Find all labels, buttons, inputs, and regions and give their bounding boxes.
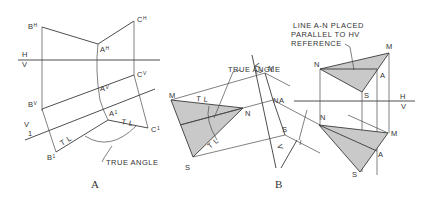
- label-tl-a1c1: T L: [121, 117, 135, 128]
- label-m-bottom: M: [391, 129, 398, 138]
- label-tl-mn: T L: [196, 94, 209, 104]
- label-hv-top: H: [22, 50, 28, 59]
- label-m-edge: M: [268, 64, 275, 73]
- true-angle-arc: [85, 126, 136, 142]
- label-hv-top-b: H: [400, 92, 406, 101]
- label-bh: BH: [28, 22, 38, 31]
- note-line-2: PARALLEL TO HV: [291, 30, 360, 39]
- label-tl-b1a1: T L: [58, 134, 73, 148]
- note-line-1: LINE A-N PLACED: [293, 21, 364, 30]
- label-m-top: M: [386, 42, 393, 51]
- edge-bv-cv: [42, 75, 134, 109]
- projector-a: [97, 44, 108, 120]
- label-v-edge-bottom: V: [275, 143, 285, 151]
- triangle-mns-left: [171, 100, 243, 157]
- figure-a: BH CH AH H V CV AV BV V 1 A1 B1 C1 T L T…: [18, 15, 160, 190]
- oblique-line-2: [300, 140, 301, 145]
- label-s-left: S: [185, 163, 191, 172]
- edge-ah-ch: [98, 21, 134, 44]
- edge-view-m-na: [265, 73, 273, 100]
- caption-b: B: [275, 178, 282, 190]
- label-b1: B1: [47, 153, 56, 162]
- label-a-top: A: [380, 71, 386, 80]
- caption-a: A: [91, 178, 99, 190]
- label-s-edge: S: [282, 125, 288, 134]
- figure-b: TRUE ANGLE M N S T L T L V2 M NA S V B L…: [169, 21, 415, 190]
- label-ch: CH: [137, 15, 147, 24]
- label-n-top: N: [314, 60, 320, 69]
- triangle-nms-bottom: [319, 125, 388, 172]
- projector-m-right: [265, 73, 290, 86]
- label-v1-top: V: [24, 120, 30, 129]
- v1-reference-line: [25, 89, 155, 140]
- label-a-bottom: A: [378, 150, 384, 159]
- label-n-left: N: [245, 109, 251, 118]
- label-true-angle-a: TRUE ANGLE: [106, 158, 159, 167]
- label-ah: AH: [100, 45, 110, 54]
- projector-b1: [42, 109, 56, 152]
- triangle-nms-top: [320, 53, 389, 92]
- label-m-left: M: [169, 91, 176, 100]
- label-hv-bottom-b: V: [401, 102, 407, 111]
- label-v1-bottom: 1: [28, 129, 33, 138]
- edge-bh-ah: [42, 27, 98, 44]
- label-a1: A1: [109, 109, 118, 118]
- note-line-3: REFERENCE: [291, 39, 342, 48]
- projector-m: [171, 73, 265, 100]
- projector-c1: [134, 75, 148, 128]
- label-na-edge: NA: [273, 96, 284, 105]
- orthographic-projection-diagram: BH CH AH H V CV AV BV V 1 A1 B1 C1 T L T…: [0, 0, 430, 202]
- label-s-top: S: [364, 91, 370, 100]
- label-bv: BV: [28, 100, 38, 109]
- label-hv-bottom: V: [22, 60, 28, 69]
- label-c1: C1: [151, 125, 160, 134]
- projector-s-right: [285, 135, 320, 153]
- label-cv: CV: [137, 70, 147, 79]
- label-av: AV: [100, 84, 110, 93]
- label-s-bottom: S: [352, 170, 358, 179]
- label-n-bottom: N: [320, 113, 326, 122]
